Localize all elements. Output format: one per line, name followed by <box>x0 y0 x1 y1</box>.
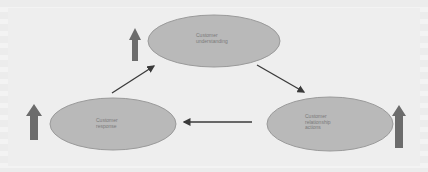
node-actions-label: Customer relationship actions <box>305 114 331 131</box>
up-arrow-icon <box>26 104 42 140</box>
diagram-page: Customer understanding Customer response… <box>0 0 428 172</box>
up-arrow-icon <box>129 28 141 61</box>
edge-response-to-understanding <box>112 66 154 93</box>
cycle-diagram <box>0 0 428 172</box>
up-arrow-icon <box>392 105 406 148</box>
node-understanding-label: Customer understanding <box>196 33 228 44</box>
node-response-label: Customer response <box>96 118 118 129</box>
edge-understanding-to-actions <box>257 65 304 92</box>
